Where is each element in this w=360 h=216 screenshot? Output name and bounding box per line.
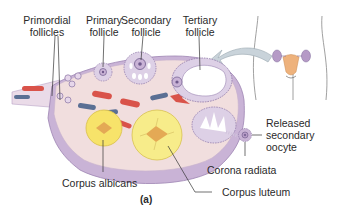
- label-corpus-albicans: Corpus albicans: [62, 177, 137, 189]
- label-primordial-follicles: Primordial follicles: [14, 14, 80, 38]
- label-line: Secondary: [118, 14, 174, 26]
- secondary-follicle: [124, 52, 156, 84]
- uterus-icon: [273, 50, 311, 78]
- label-line: follicle: [118, 26, 174, 38]
- label-line: Tertiary: [176, 14, 224, 26]
- label-line: Primordial: [14, 14, 80, 26]
- tertiary-follicle: [172, 58, 232, 102]
- label-line: follicle: [176, 26, 224, 38]
- label-line: oocyte: [266, 141, 314, 153]
- label-line: follicles: [14, 26, 80, 38]
- label-line: Released: [266, 117, 314, 129]
- label-secondary-follicle: Secondary follicle: [118, 14, 174, 38]
- label-released-secondary-oocyte: Released secondary oocyte: [266, 117, 314, 153]
- label-corpus-luteum: Corpus luteum: [222, 186, 290, 198]
- released-oocyte: [239, 129, 252, 142]
- ovary-diagram: Primordial follicles Primary follicle Se…: [0, 0, 360, 216]
- corpus-luteum: [132, 110, 182, 160]
- corpus-albicans: [86, 110, 122, 146]
- label-tertiary-follicle: Tertiary follicle: [176, 14, 224, 38]
- panel-label: (a): [140, 194, 152, 206]
- label-corona-radiata: Corona radiata: [207, 164, 276, 176]
- label-line: secondary: [266, 129, 314, 141]
